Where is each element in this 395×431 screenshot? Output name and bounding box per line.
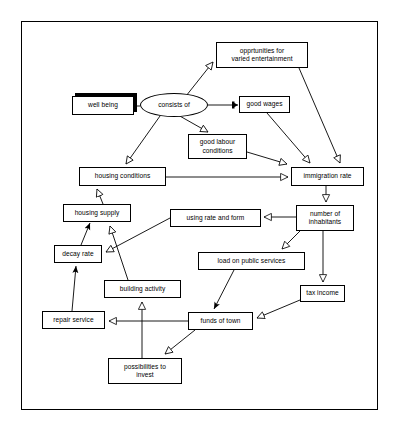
node-housing-supply[interactable]: housing supply (63, 204, 131, 222)
node-label: housing supply (75, 209, 120, 217)
node-label: tax income (306, 289, 338, 297)
node-number-of-inhabitants[interactable]: number of inhabitants (296, 205, 354, 231)
node-tax-income[interactable]: tax income (300, 285, 345, 302)
node-label: opprtunities for varied entertainment (231, 47, 292, 64)
node-opportunities-for-varied-entertainment[interactable]: opprtunities for varied entertainment (216, 42, 308, 68)
node-label: good wages (246, 100, 282, 108)
node-label: using rate and form (187, 214, 245, 222)
node-possibilities-to-invest[interactable]: possibilities to invest (108, 358, 182, 384)
node-label: building activity (120, 285, 166, 293)
node-label: number of inhabitants (309, 210, 341, 227)
node-label: decay rate (62, 250, 93, 258)
node-label: good labour conditions (200, 138, 235, 155)
node-label: well being (88, 101, 118, 109)
node-label: funds of town (201, 317, 241, 325)
node-immigration-rate[interactable]: immigration rate (291, 167, 364, 186)
node-label: load on public services (218, 257, 286, 265)
node-using-rate-and-form[interactable]: using rate and form (170, 209, 261, 227)
diagram-canvas: well being consists of opprtunities for … (0, 0, 395, 431)
node-good-wages[interactable]: good wages (239, 96, 290, 113)
node-housing-conditions[interactable]: housing conditions (79, 167, 166, 186)
node-good-labour-conditions[interactable]: good labour conditions (188, 134, 247, 159)
node-label: consists of (158, 101, 190, 109)
node-well-being[interactable]: well being (72, 96, 134, 115)
node-building-activity[interactable]: building activity (104, 280, 181, 298)
node-decay-rate[interactable]: decay rate (54, 245, 102, 263)
node-label: possibilities to invest (124, 363, 166, 380)
node-consists-of[interactable]: consists of (140, 93, 208, 117)
node-funds-of-town[interactable]: funds of town (188, 312, 253, 330)
node-load-on-public-services[interactable]: load on public services (198, 252, 305, 270)
node-label: housing conditions (95, 172, 151, 180)
node-repair-service[interactable]: repair service (42, 311, 105, 329)
node-label: immigration rate (303, 172, 351, 180)
node-label: repair service (53, 316, 93, 324)
